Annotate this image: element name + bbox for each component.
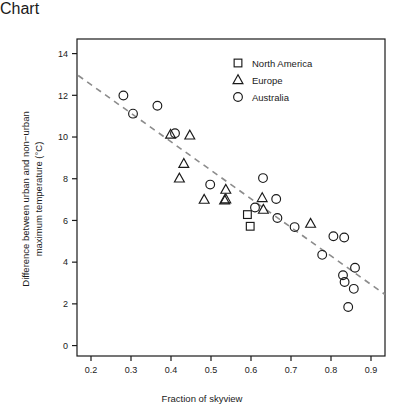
data-point (349, 284, 358, 293)
data-point (340, 233, 349, 242)
legend-label: Australia (252, 92, 290, 103)
plot-canvas: 0.20.30.40.50.60.70.80.9 02468101214 Nor… (0, 18, 404, 408)
data-point (206, 180, 215, 189)
x-tick-label: 0.7 (285, 365, 298, 375)
data-point (351, 263, 360, 272)
data-point (259, 174, 268, 183)
x-tick-label: 0.3 (125, 365, 138, 375)
x-tick-label: 0.6 (245, 365, 258, 375)
plot-axis-box (77, 39, 385, 356)
data-point (272, 195, 281, 204)
legend-label: North America (252, 58, 313, 69)
data-point (185, 130, 195, 139)
trend-line (78, 75, 385, 294)
x-axis-ticks: 0.20.30.40.50.60.70.80.9 (85, 356, 378, 375)
data-point (199, 194, 209, 203)
data-points-layer (119, 91, 359, 311)
x-axis-title: Fraction of skyview (0, 393, 404, 404)
y-tick-label: 6 (63, 216, 68, 226)
y-tick-label: 10 (58, 132, 68, 142)
x-tick-label: 0.9 (365, 365, 378, 375)
data-point (244, 211, 252, 219)
data-point (221, 184, 231, 193)
y-axis-title-line1: Difference between urban and non−urban (19, 49, 32, 349)
y-tick-label: 2 (63, 299, 68, 309)
x-tick-label: 0.4 (165, 365, 178, 375)
legend-marker-triangle (233, 75, 243, 84)
data-point (306, 218, 316, 227)
data-point (246, 222, 254, 230)
data-point (119, 91, 128, 100)
data-point (257, 193, 267, 202)
x-tick-label: 0.2 (85, 365, 98, 375)
chart-legend: North AmericaEuropeAustralia (233, 58, 313, 103)
x-tick-label: 0.8 (325, 365, 338, 375)
legend-marker-square (234, 59, 242, 67)
data-point (344, 303, 353, 312)
scatter-chart-figure: 0.20.30.40.50.60.70.80.9 02468101214 Nor… (0, 18, 404, 408)
data-point (179, 159, 189, 168)
legend-marker-circle (234, 93, 243, 102)
data-point (251, 203, 260, 212)
y-tick-label: 12 (58, 91, 68, 101)
y-tick-label: 8 (63, 174, 68, 184)
y-axis-title-line2: maximum temperature (°C) (32, 49, 45, 349)
data-point (318, 250, 327, 259)
x-tick-label: 0.5 (205, 365, 218, 375)
y-axis-title: Difference between urban and non−urban m… (19, 49, 45, 349)
legend-label: Europe (252, 75, 283, 86)
series-australia (119, 91, 359, 311)
y-tick-label: 4 (63, 257, 68, 267)
data-point (174, 173, 184, 182)
y-tick-label: 14 (58, 49, 68, 59)
y-axis-ticks: 02468101214 (58, 49, 77, 351)
series-europe (166, 129, 316, 227)
series-north-america (244, 211, 255, 230)
y-tick-label: 0 (63, 341, 68, 351)
data-point (329, 232, 338, 241)
data-point (153, 101, 162, 110)
